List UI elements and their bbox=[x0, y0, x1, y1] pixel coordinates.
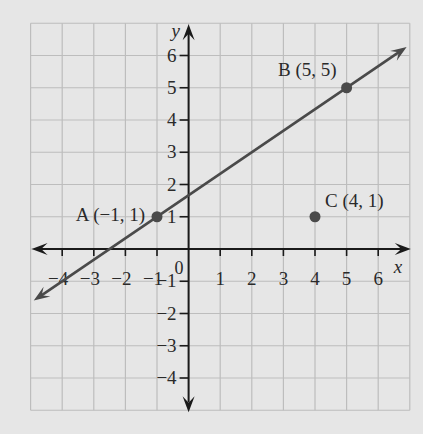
y-tick-label: 3 bbox=[167, 141, 177, 162]
y-tick-label: 5 bbox=[167, 77, 177, 98]
x-tick-label: 3 bbox=[279, 268, 289, 289]
x-tick-label: 1 bbox=[215, 268, 225, 289]
point-a bbox=[152, 211, 163, 222]
point-label-a: A (−1, 1) bbox=[76, 204, 145, 226]
y-axis-label: y bbox=[170, 20, 181, 41]
y-tick-label: 6 bbox=[167, 45, 177, 66]
y-tick-label: −2 bbox=[156, 303, 176, 324]
coordinate-plane: −4−3−2−1123456−4−3−2−1123456 A (−1, 1)B … bbox=[0, 0, 423, 434]
x-tick-label: −3 bbox=[80, 268, 100, 289]
point-b bbox=[341, 82, 352, 93]
y-tick-label: −3 bbox=[156, 335, 176, 356]
x-tick-label: 5 bbox=[342, 268, 352, 289]
x-axis-label: x bbox=[393, 256, 403, 277]
point-c bbox=[310, 211, 321, 222]
point-label-c: C (4, 1) bbox=[325, 190, 384, 212]
point-label-b: B (5, 5) bbox=[278, 59, 337, 81]
y-tick-label: 4 bbox=[167, 109, 177, 130]
origin-label: 0 bbox=[175, 258, 184, 278]
x-tick-label: 2 bbox=[247, 268, 257, 289]
x-tick-label: 6 bbox=[373, 268, 383, 289]
y-tick-label: −1 bbox=[156, 270, 176, 291]
y-tick-label: 2 bbox=[167, 174, 177, 195]
data-points: A (−1, 1)B (5, 5)C (4, 1) bbox=[76, 59, 384, 226]
y-tick-label: −4 bbox=[156, 367, 177, 388]
x-tick-label: 4 bbox=[310, 268, 320, 289]
x-tick-label: −2 bbox=[111, 268, 131, 289]
